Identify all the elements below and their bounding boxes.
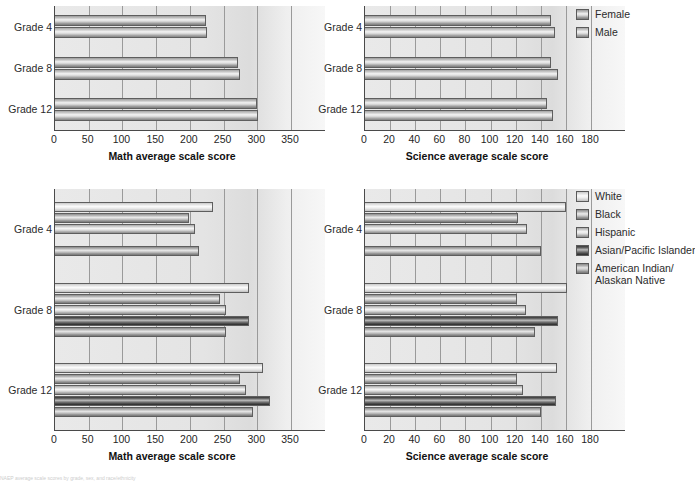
bar-male: [365, 69, 558, 80]
x-axis-title: Math average scale score: [54, 450, 290, 462]
bar-ai: [365, 246, 541, 256]
x-tick-label: 80: [459, 134, 471, 145]
bar-white: [365, 363, 557, 373]
bar-black: [55, 213, 189, 223]
bar-black: [365, 213, 518, 223]
category-label: Grade 12: [310, 385, 368, 396]
x-tick-label: 200: [180, 134, 198, 145]
x-tick-label: 200: [180, 434, 198, 445]
gridline: [291, 6, 292, 130]
x-tick-label: 80: [459, 434, 471, 445]
bar-asian: [365, 396, 556, 406]
chart-math-race: Grade 4Grade 8Grade 12050100150200250300…: [0, 185, 346, 470]
legend-race: WhiteBlackHispanicAsian/Pacific Islander…: [576, 190, 690, 291]
category-label: Grade 8: [0, 305, 58, 316]
gridline: [541, 189, 542, 430]
legend-swatch-icon: [576, 263, 589, 274]
panel-science-gender: Grade 4Grade 8Grade 12020406080100120140…: [310, 0, 580, 170]
legend-swatch-icon: [576, 9, 589, 20]
x-tick-label: 150: [146, 434, 164, 445]
panel-math-race: Grade 4Grade 8Grade 12050100150200250300…: [0, 185, 346, 470]
x-tick-label: 150: [146, 134, 164, 145]
bar-ai: [55, 327, 226, 337]
category-label: Grade 8: [310, 63, 368, 74]
legend-item[interactable]: Asian/Pacific Islander: [576, 244, 690, 259]
legend-item-label: White: [595, 190, 622, 202]
x-tick-label: 350: [281, 434, 299, 445]
category-label: Grade 4: [0, 224, 58, 235]
legend-item-label: Asian/Pacific Islander: [595, 244, 695, 256]
x-tick-label: 350: [281, 134, 299, 145]
legend-item[interactable]: Hispanic: [576, 226, 690, 241]
bar-male: [55, 27, 207, 38]
bar-white: [55, 363, 263, 373]
legend-item[interactable]: Female: [576, 8, 686, 23]
bar-hispanic: [365, 224, 527, 234]
legend-item-label: Male: [595, 26, 618, 38]
x-tick-label: 300: [248, 134, 266, 145]
x-tick-label: 140: [531, 434, 549, 445]
x-tick-label: 60: [433, 434, 445, 445]
panel-science-race: Grade 4Grade 8Grade 12020406080100120140…: [310, 185, 580, 470]
bar-female: [55, 15, 206, 26]
x-axis-math-gender: 050100150200250300350: [54, 134, 290, 148]
legend-swatch-icon: [576, 245, 589, 256]
x-tick-label: 180: [581, 134, 599, 145]
x-axis-math-race: 050100150200250300350: [54, 434, 290, 448]
chart-math-gender: Grade 4Grade 8Grade 12050100150200250300…: [0, 0, 346, 170]
bar-white: [55, 283, 249, 293]
x-axis-title: Science average scale score: [364, 150, 590, 162]
bar-black: [55, 294, 220, 304]
bar-ai: [365, 407, 541, 417]
legend-item-label-line2: Alaskan Native: [595, 274, 674, 286]
bar-hispanic: [55, 305, 226, 315]
x-axis-science-race: 020406080100120140160180: [364, 434, 590, 448]
category-label: Grade 12: [0, 385, 58, 396]
bar-asian: [365, 316, 558, 326]
x-tick-label: 50: [82, 434, 94, 445]
category-label: Grade 4: [310, 224, 368, 235]
bar-male: [365, 110, 553, 121]
bar-ai: [365, 327, 535, 337]
bar-white: [365, 283, 567, 293]
legend-item[interactable]: Black: [576, 208, 690, 223]
legend-item[interactable]: White: [576, 190, 690, 205]
gridline: [291, 189, 292, 430]
x-tick-label: 40: [408, 134, 420, 145]
x-tick-label: 250: [214, 134, 232, 145]
x-tick-label: 0: [361, 434, 367, 445]
plot-area-math-race: [54, 189, 325, 431]
x-tick-label: 100: [481, 434, 499, 445]
bar-female: [365, 15, 551, 26]
x-tick-label: 20: [383, 134, 395, 145]
x-axis-science-gender: 020406080100120140160180: [364, 134, 590, 148]
bar-male: [365, 27, 555, 38]
x-tick-label: 180: [581, 434, 599, 445]
bar-asian: [55, 316, 249, 326]
legend-item-label: American Indian/Alaskan Native: [595, 262, 674, 286]
x-tick-label: 0: [51, 434, 57, 445]
legend-swatch-icon: [576, 209, 589, 220]
legend-swatch-icon: [576, 27, 589, 38]
chart-science-race: Grade 4Grade 8Grade 12020406080100120140…: [310, 185, 580, 470]
x-tick-label: 100: [113, 434, 131, 445]
x-tick-label: 100: [481, 134, 499, 145]
legend-gender: FemaleMale: [576, 8, 686, 44]
category-label: Grade 8: [310, 305, 368, 316]
chart-science-gender: Grade 4Grade 8Grade 12020406080100120140…: [310, 0, 580, 170]
category-label: Grade 12: [310, 104, 368, 115]
x-tick-label: 50: [82, 134, 94, 145]
bar-white: [55, 202, 213, 212]
bar-hispanic: [365, 305, 526, 315]
bar-hispanic: [365, 385, 523, 395]
gridline: [566, 6, 567, 130]
legend-item[interactable]: Male: [576, 26, 686, 41]
panel-math-gender: Grade 4Grade 8Grade 12050100150200250300…: [0, 0, 346, 170]
legend-item[interactable]: American Indian/Alaskan Native: [576, 262, 690, 288]
bar-asian: [55, 396, 270, 406]
category-label: Grade 12: [0, 104, 58, 115]
x-tick-label: 250: [214, 434, 232, 445]
legend-item-label: Hispanic: [595, 226, 635, 238]
category-label: Grade 8: [0, 63, 58, 74]
